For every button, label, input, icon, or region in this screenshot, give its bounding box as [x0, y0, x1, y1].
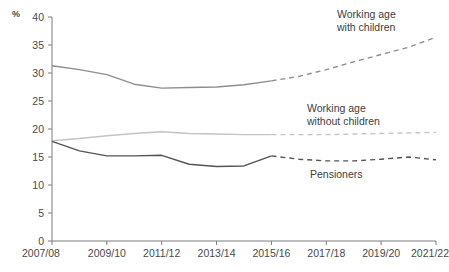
- y-tick-label: 0: [38, 235, 44, 247]
- y-tick-label: 10: [32, 179, 44, 191]
- series-line-solid: [52, 141, 271, 166]
- x-tick-label: 2021/22: [411, 247, 449, 259]
- y-tick-label: 40: [32, 11, 44, 23]
- x-tick-label: 2007/08: [22, 247, 60, 259]
- x-tick-label: 2019/20: [362, 247, 400, 259]
- series-label-pensioners: Pensioners: [310, 168, 363, 180]
- y-axis: 0510152025303540: [32, 11, 52, 247]
- series-annotations: Working agewith childrenWorking agewitho…: [306, 8, 396, 180]
- series-line-dashed: [271, 132, 436, 134]
- series-line-dashed: [271, 37, 436, 81]
- series-label-working-age-with-children: Working age: [337, 8, 396, 20]
- series-line-solid: [52, 66, 271, 88]
- y-axis-unit-label: %: [12, 9, 20, 19]
- y-tick-label: 20: [32, 123, 44, 135]
- series-label-working-age-with-children: with children: [336, 21, 396, 33]
- x-tick-label: 2013/14: [198, 247, 236, 259]
- series-line-solid: [52, 132, 271, 141]
- y-tick-label: 25: [32, 95, 44, 107]
- x-tick-label: 2015/16: [252, 247, 290, 259]
- x-tick-label: 2011/12: [143, 247, 180, 259]
- y-tick-label: 30: [32, 67, 44, 79]
- data-series-group: [52, 37, 436, 166]
- line-chart-svg: 0510152025303540 2007/082009/102011/1220…: [0, 0, 449, 272]
- x-axis: 2007/082009/102011/122013/142015/162017/…: [22, 241, 449, 259]
- x-tick-label: 2017/18: [307, 247, 345, 259]
- y-tick-label: 15: [32, 151, 44, 163]
- series-label-working-age-without-children: Working age: [307, 102, 366, 114]
- y-tick-label: 35: [32, 39, 44, 51]
- series-label-working-age-without-children: without children: [306, 115, 380, 127]
- chart-container: 0510152025303540 2007/082009/102011/1220…: [0, 0, 449, 272]
- series-line-dashed: [271, 156, 436, 161]
- y-tick-label: 5: [38, 207, 44, 219]
- x-tick-label: 2009/10: [88, 247, 126, 259]
